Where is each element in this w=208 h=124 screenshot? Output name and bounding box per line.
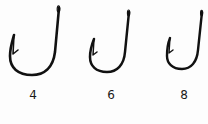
- hook-size-label-8: 8: [180, 89, 188, 101]
- hook-size-4-icon: [10, 6, 60, 75]
- hook-size-figure: 4 6 8: [0, 0, 208, 124]
- hook-size-8-icon: [167, 10, 203, 69]
- hooks-illustration: [0, 0, 208, 124]
- hook-size-label-6: 6: [107, 89, 115, 101]
- hook-size-6-icon: [90, 10, 130, 72]
- hook-size-label-4: 4: [29, 89, 37, 101]
